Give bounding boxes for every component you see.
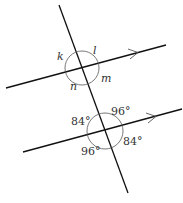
angle-label-bottom-left: 96° — [81, 145, 101, 158]
angle-label-n: n — [70, 80, 77, 93]
angle-label-bottom-right: 84° — [123, 135, 143, 148]
transversal-line — [59, 5, 128, 193]
angle-label-k: k — [57, 50, 64, 63]
bottom-parallel-line — [23, 109, 182, 152]
angle-label-top-right: 96° — [111, 105, 131, 118]
angle-label-l: l — [93, 44, 97, 57]
angle-label-top-left: 84° — [71, 115, 91, 128]
parallel-lines-diagram: k l m n 84° 96° 96° 84° — [0, 0, 183, 203]
angle-label-m: m — [101, 72, 111, 85]
